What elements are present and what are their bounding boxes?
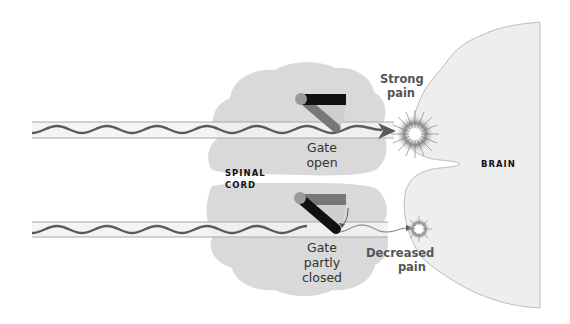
gate-open-label: Gate open [292,140,352,170]
gate-open-label-line1: Gate [292,140,352,155]
spinal-cord-label-line2: CORD [225,179,266,191]
strong-pain-line2: pain [380,86,422,100]
gate-partly-closed-line1: Gate [292,240,352,255]
gate-pivot [295,93,307,105]
strong-pain-burst-icon [391,110,439,158]
decreased-pain-line1: Decreased [366,246,426,260]
strong-pain-line1: Strong [380,72,422,86]
spinal-cord-label-line1: SPINAL [225,167,266,179]
brain-label: BRAIN [481,158,516,170]
gate-pivot [294,192,306,204]
gate-partly-closed-label: Gate partly closed [292,240,352,285]
decreased-pain-line2: pain [366,260,426,274]
gate-open-label-line2: open [292,155,352,170]
strong-pain-label: Strong pain [380,72,422,100]
gate-partly-closed-line3: closed [292,270,352,285]
gate-bar [302,94,346,105]
spinal-cord-label: SPINAL CORD [225,167,266,191]
decreased-pain-label: Decreased pain [366,246,426,274]
gate-partly-closed-line2: partly [292,255,352,270]
lower-nerve-fiber [32,222,414,237]
